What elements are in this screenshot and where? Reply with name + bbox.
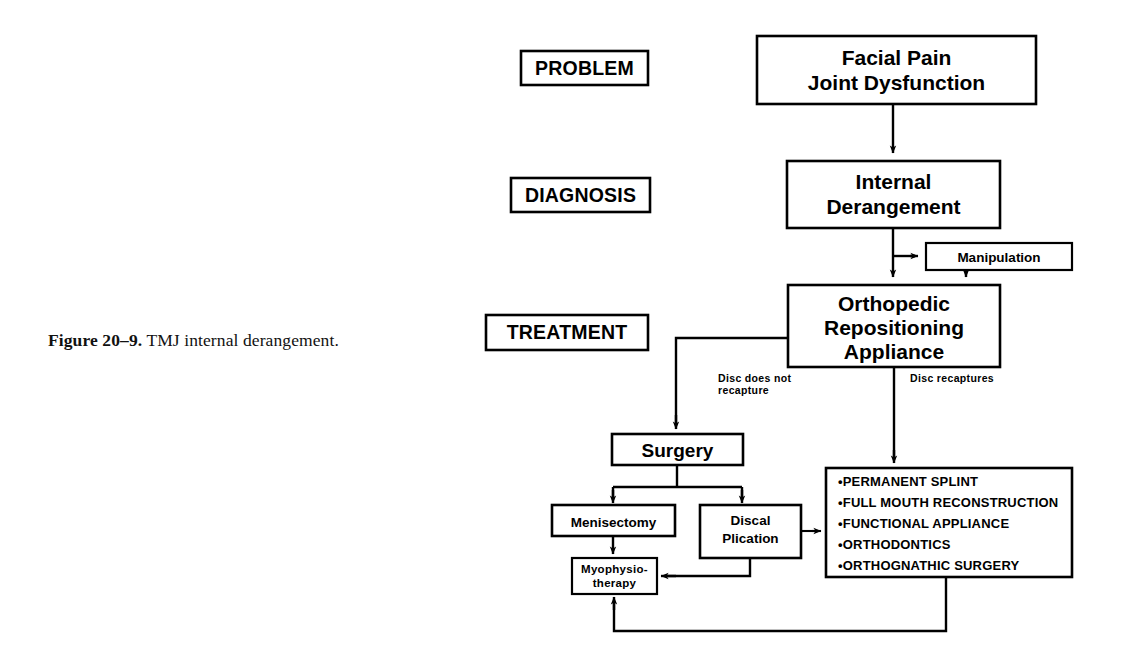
outcome-list-item-2: •FUNCTIONAL APPLIANCE bbox=[838, 516, 1009, 531]
node-myophysiotherapy-line1: Myophysio- bbox=[581, 563, 648, 575]
node-surgery: Surgery bbox=[612, 434, 743, 465]
node-myophysiotherapy: Myophysio- therapy bbox=[572, 558, 657, 594]
edge-label-recaptures: Disc recaptures bbox=[910, 372, 994, 384]
stage-label-treatment-text: TREATMENT bbox=[507, 321, 628, 343]
node-facial-pain-line2: Joint Dysfunction bbox=[808, 71, 985, 94]
node-facial-pain-line1: Facial Pain bbox=[842, 46, 952, 69]
node-surgery-label: Surgery bbox=[642, 440, 714, 461]
outcome-list-item-0: •PERMANENT SPLINT bbox=[838, 474, 978, 489]
stage-label-problem-text: PROBLEM bbox=[535, 57, 634, 79]
stage-label-problem: PROBLEM bbox=[521, 51, 648, 85]
edge-label-no-recapture: Disc does not recapture bbox=[718, 372, 792, 396]
edge-discal-to-myophysio-path bbox=[667, 558, 750, 576]
node-internal-derangement-line2: Derangement bbox=[826, 195, 960, 218]
node-orthopedic-appliance-line3: Appliance bbox=[844, 340, 944, 363]
node-menisectomy-label: Menisectomy bbox=[571, 515, 657, 530]
node-menisectomy: Menisectomy bbox=[552, 505, 675, 536]
node-discal-plication: Discal Plication bbox=[700, 505, 801, 558]
node-facial-pain: Facial Pain Joint Dysfunction bbox=[757, 36, 1036, 104]
outcome-list-item-4: •ORTHOGNATHIC SURGERY bbox=[838, 558, 1019, 573]
edge-surgery-split bbox=[613, 465, 742, 497]
node-outcome-list: •PERMANENT SPLINT •FULL MOUTH RECONSTRUC… bbox=[826, 468, 1072, 577]
node-internal-derangement-line1: Internal bbox=[856, 170, 932, 193]
node-discal-plication-line1: Discal bbox=[731, 513, 771, 528]
outcome-list-item-1: •FULL MOUTH RECONSTRUCTION bbox=[838, 495, 1058, 510]
outcome-list-item-3: •ORTHODONTICS bbox=[838, 537, 951, 552]
tmj-flowchart: PROBLEM DIAGNOSIS TREATMENT Facial Pain … bbox=[0, 0, 1136, 670]
node-orthopedic-appliance: Orthopedic Repositioning Appliance bbox=[788, 285, 1000, 367]
node-myophysiotherapy-line2: therapy bbox=[593, 577, 637, 589]
edge-outcomes-to-myophysio-path bbox=[614, 577, 946, 631]
edge-label-no-recapture-line2: recapture bbox=[718, 384, 769, 396]
node-manipulation: Manipulation bbox=[926, 243, 1072, 270]
edge-label-no-recapture-line1: Disc does not bbox=[718, 372, 792, 384]
stage-label-treatment: TREATMENT bbox=[486, 315, 648, 350]
node-orthopedic-appliance-line1: Orthopedic bbox=[838, 292, 950, 315]
node-manipulation-label: Manipulation bbox=[957, 250, 1040, 265]
node-internal-derangement: Internal Derangement bbox=[787, 161, 1000, 228]
stage-label-diagnosis: DIAGNOSIS bbox=[511, 178, 650, 212]
node-discal-plication-line2: Plication bbox=[722, 531, 778, 546]
stage-label-diagnosis-text: DIAGNOSIS bbox=[525, 184, 636, 206]
node-orthopedic-appliance-line2: Repositioning bbox=[824, 316, 964, 339]
